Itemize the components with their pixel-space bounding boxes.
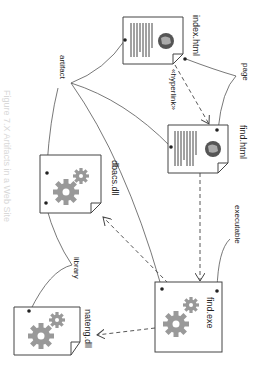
artifact-dbacs-dll[interactable]: dbacs.dll (40, 155, 120, 213)
globe-icon (205, 141, 221, 157)
artifact-name-find-html: find.html (238, 125, 248, 159)
artifact-find-exe[interactable]: find.exe (155, 282, 222, 352)
stereotype-executable-label: executable (233, 205, 242, 244)
artifact-name-nateng-dll: nateng.dll (83, 309, 93, 348)
hyperlink-stereotype-label: «hyperlink» (169, 69, 178, 110)
artifact-find-html[interactable]: find.html (168, 125, 248, 173)
uml-artifact-diagram: Figure 7.X Artifacts in a Web Site artif… (0, 0, 256, 369)
artifact-name-find-exe: find.exe (205, 297, 215, 329)
artifact-nateng-dll[interactable]: nateng.dll (14, 307, 93, 355)
artifact-index-html[interactable]: index.html (123, 15, 201, 64)
artifact-name-dbacs-dll: dbacs.dll (110, 160, 120, 196)
stereotype-library-label: library (72, 257, 81, 279)
dependency-find-exe-to-dbacs (103, 217, 168, 283)
dependency-find-exe-to-nateng (97, 328, 155, 335)
figure-caption: Figure 7.X Artifacts in a Web Site (2, 90, 12, 222)
stereotype-artifact-label: artifact (58, 55, 67, 80)
artifact-name-index-html: index.html (191, 15, 201, 56)
dependency-index-to-find-html (175, 65, 209, 124)
stereotype-page-label: page (241, 63, 250, 81)
globe-icon (158, 33, 174, 49)
